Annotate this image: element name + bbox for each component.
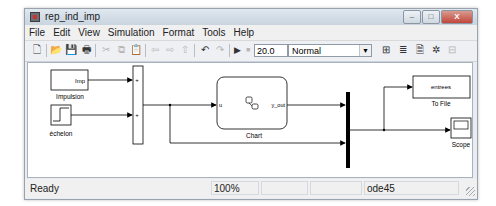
close-button[interactable]: X xyxy=(441,10,473,24)
toolbar-separator xyxy=(194,44,195,57)
model-window: rep_ind_imp – □ X File Edit View Simulat… xyxy=(24,8,478,200)
cut-icon[interactable]: ✂ xyxy=(100,44,112,56)
stop-time-input[interactable]: 20.0 xyxy=(254,44,288,57)
simulation-mode-value: Normal xyxy=(292,46,321,56)
status-field-4 xyxy=(310,181,362,195)
status-field-3 xyxy=(261,181,308,195)
stateflow-chart-block[interactable]: u y_out Chart xyxy=(217,77,287,139)
menu-help[interactable]: Help xyxy=(230,27,259,38)
solver-name: ode45 xyxy=(364,181,459,195)
open-icon[interactable]: 📂 xyxy=(50,44,62,56)
menu-bar: File Edit View Simulation Format Tools H… xyxy=(25,25,477,41)
signal-line[interactable] xyxy=(384,87,412,130)
mux-block[interactable] xyxy=(346,92,350,168)
debug-icon[interactable]: ✲ xyxy=(430,44,442,56)
undo-icon[interactable]: ↶ xyxy=(199,44,211,56)
toggle-icon[interactable]: ⊟ xyxy=(446,44,458,56)
paste-icon[interactable]: 📋 xyxy=(130,44,142,56)
forward-icon[interactable]: ⇨ xyxy=(164,44,176,56)
chevron-down-icon[interactable]: ▼ xyxy=(359,45,371,56)
menu-format[interactable]: Format xyxy=(159,27,199,38)
scope-label: Scope xyxy=(452,141,471,149)
zoom-level: 100% xyxy=(211,181,259,195)
menu-file[interactable]: File xyxy=(25,27,49,38)
copy-icon[interactable]: ⧉ xyxy=(115,44,127,56)
model-canvas[interactable]: Imp Impulsion échelon + + xyxy=(27,62,473,178)
window-title: rep_ind_imp xyxy=(45,11,100,22)
toolbar-separator xyxy=(145,44,146,57)
simulation-mode-select[interactable]: Normal ▼ xyxy=(288,44,372,57)
maximize-button[interactable]: □ xyxy=(422,10,440,24)
to-file-label: To File xyxy=(431,100,451,107)
redo-icon[interactable]: ↷ xyxy=(214,44,226,56)
chart-label: Chart xyxy=(246,132,262,139)
sum-block[interactable]: + + xyxy=(133,66,143,144)
build-icon[interactable]: ⊞ xyxy=(380,44,392,56)
minimize-button[interactable]: – xyxy=(403,10,421,24)
back-icon[interactable]: ⇦ xyxy=(149,44,161,56)
menu-tools[interactable]: Tools xyxy=(198,27,229,38)
impulsion-block[interactable]: Imp Impulsion xyxy=(51,70,88,101)
toolbar: 🗋 📂 💾 🖶 ✂ ⧉ 📋 ⇦ ⇨ ⇧ ↶ ↷ ▶ ■ 20.0 Normal … xyxy=(25,41,477,62)
status-text: Ready xyxy=(27,181,207,195)
model-explorer-icon[interactable]: 🗎 xyxy=(414,44,426,56)
echelon-label: échelon xyxy=(50,130,73,137)
title-bar[interactable]: rep_ind_imp – □ X xyxy=(25,9,477,25)
stop-simulation-icon[interactable]: ■ xyxy=(242,44,254,56)
up-icon[interactable]: ⇧ xyxy=(179,44,191,56)
to-file-block[interactable]: entrees To File xyxy=(413,76,470,107)
sum-port-1: + xyxy=(135,77,139,83)
chart-in-port: u xyxy=(219,102,222,108)
new-model-icon[interactable]: 🗋 xyxy=(31,44,43,56)
toolbar-separator xyxy=(46,44,47,57)
library-browser-icon[interactable]: ≣ xyxy=(397,44,409,56)
sum-port-2: + xyxy=(135,112,139,118)
toolbar-separator xyxy=(229,44,230,57)
toolbar-separator xyxy=(95,44,96,57)
chart-out-port: y_out xyxy=(272,102,286,108)
resize-grip[interactable] xyxy=(466,187,475,196)
print-icon[interactable]: 🖶 xyxy=(80,44,92,56)
scope-block[interactable]: Scope xyxy=(451,118,471,149)
save-icon[interactable]: 💾 xyxy=(65,44,77,56)
simulink-app-icon xyxy=(30,12,40,22)
impulsion-label: Impulsion xyxy=(56,93,84,101)
menu-simulation[interactable]: Simulation xyxy=(104,27,159,38)
menu-edit[interactable]: Edit xyxy=(49,27,74,38)
menu-view[interactable]: View xyxy=(74,27,104,38)
impulsion-inner-label: Imp xyxy=(75,78,86,84)
to-file-filename: entrees xyxy=(431,84,451,90)
status-bar: Ready 100% ode45 xyxy=(25,179,477,198)
echelon-block[interactable]: échelon xyxy=(50,105,73,137)
